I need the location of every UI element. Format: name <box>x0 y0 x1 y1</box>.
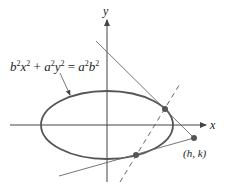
x-axis-label: x <box>209 118 216 132</box>
external-point-hk <box>191 135 197 141</box>
tangent-point-lower <box>133 152 139 158</box>
external-point-label: (h, k) <box>183 147 207 160</box>
label-pointer <box>60 73 70 95</box>
ellipse-tangent-diagram: y x (h, k) <box>0 0 229 189</box>
tangent-point-upper <box>162 106 168 112</box>
eq-equals: = <box>64 59 78 74</box>
eq-exp: 2 <box>95 59 99 68</box>
tangent-line-upper <box>96 41 194 138</box>
ellipse-equation-label: b2x2 + a2y2 = a2b2 <box>10 59 99 75</box>
tangent-line-lower <box>59 138 194 176</box>
eq-plus: + <box>30 59 44 74</box>
y-axis-label: y <box>102 4 109 18</box>
